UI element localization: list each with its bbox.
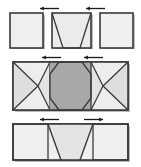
stowed-right-end-panel <box>100 13 133 48</box>
stowed-left-end-panel <box>10 13 43 48</box>
panel-face <box>10 13 43 48</box>
folding-panel-diagram <box>0 0 141 167</box>
stage-intermediate <box>13 58 130 113</box>
stage-stowed <box>10 9 135 50</box>
deployed-center-flat-panel <box>48 124 93 160</box>
core-octagon <box>50 62 91 110</box>
panel-face <box>100 13 133 48</box>
stage-deployed <box>13 120 130 163</box>
intermediate-center-core-panel <box>50 62 91 110</box>
stowed-center-fold-panel <box>52 13 91 48</box>
diagram-canvas <box>0 0 141 167</box>
